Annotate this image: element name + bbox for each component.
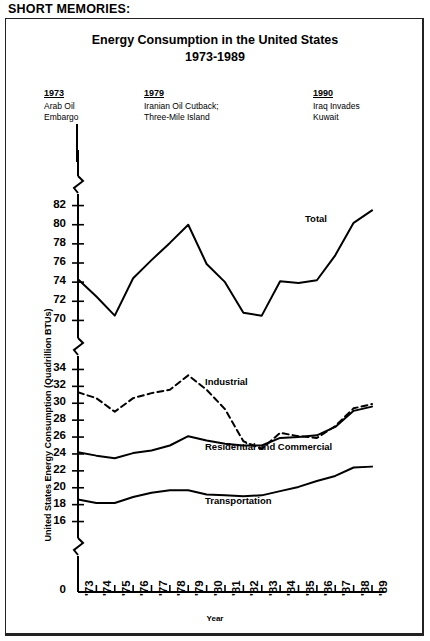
x-tick-label: '87 [340, 580, 352, 596]
series-label-transportation: Transportation [205, 495, 272, 506]
x-tick-label: '88 [359, 580, 371, 596]
x-tick-label: '89 [377, 580, 389, 596]
x-axis-title: Year [0, 614, 430, 623]
x-tick-label: '77 [157, 580, 169, 596]
x-tick-label: '84 [285, 580, 297, 596]
series-label-industrial: Industrial [205, 376, 248, 387]
x-tick-label: '78 [175, 580, 187, 596]
x-axis-tick-labels: '73'74'75'76'77'78'79'80'81'82'83'84'85'… [0, 0, 430, 641]
x-tick-label: '83 [267, 580, 279, 596]
series-label-residential: Residential and Commercial [205, 441, 332, 452]
x-tick-label: '73 [83, 580, 95, 596]
chart-page: SHORT MEMORIES: THE ENERGY ROLLER-COASTE… [0, 0, 430, 641]
x-tick-label: '82 [248, 580, 260, 596]
x-tick-label: '86 [322, 580, 334, 596]
x-tick-label: '81 [230, 580, 242, 596]
x-tick-label: '76 [138, 580, 150, 596]
x-tick-label: '80 [212, 580, 224, 596]
x-tick-label: '75 [120, 580, 132, 596]
x-tick-label: '79 [193, 580, 205, 596]
series-label-total: Total [305, 213, 327, 224]
x-tick-label: '74 [101, 580, 113, 596]
x-tick-label: '85 [304, 580, 316, 596]
